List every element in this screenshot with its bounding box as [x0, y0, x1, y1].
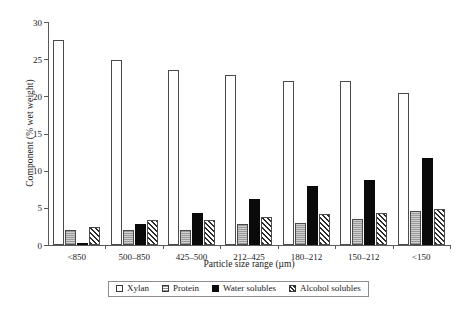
filled-square-icon: [212, 285, 219, 292]
legend-item-label: Xylan: [127, 284, 149, 293]
bar-water-solubles[interactable]: [422, 158, 433, 245]
y-axis-tick-label: 10: [33, 166, 42, 176]
legend-item-water-solubles[interactable]: Water solubles: [212, 284, 276, 293]
bar-xylan[interactable]: [283, 81, 294, 245]
x-axis-tick-mark: [163, 245, 164, 249]
x-axis-line: [48, 245, 450, 246]
x-axis-title: Particle size range (µm): [48, 259, 450, 269]
y-axis-tick-label: 20: [33, 92, 42, 102]
bar-group: 425–500: [163, 22, 220, 245]
bar-xylan[interactable]: [398, 93, 409, 245]
y-axis-tick: 0: [48, 245, 49, 246]
bar-protein[interactable]: [295, 223, 306, 245]
chart-legend: XylanProteinWater solublesAlcohol solubl…: [108, 281, 369, 297]
bar-xylan[interactable]: [168, 70, 179, 245]
y-axis-tick-label: 15: [33, 129, 42, 139]
y-axis-tick-label: 30: [33, 18, 42, 28]
bar-chart-figure: Component (% wet weight) 051015202530 <8…: [0, 0, 458, 311]
dotted-square-icon: [162, 285, 169, 292]
bar-water-solubles[interactable]: [192, 213, 203, 245]
x-axis-tick-mark: [278, 245, 279, 249]
bar-water-solubles[interactable]: [135, 224, 146, 245]
bar-alcohol-solubles[interactable]: [319, 214, 330, 245]
x-axis-tick-mark: [220, 245, 221, 249]
open-square-icon: [116, 285, 123, 292]
bar-xylan[interactable]: [53, 40, 64, 245]
plot-area: 051015202530 <850500–850425–500212–42518…: [48, 22, 450, 245]
bar-protein[interactable]: [180, 230, 191, 245]
x-axis-tick-mark: [393, 245, 394, 249]
bar-xylan[interactable]: [111, 60, 122, 245]
bar-alcohol-solubles[interactable]: [204, 220, 215, 245]
bar-alcohol-solubles[interactable]: [376, 213, 387, 245]
bar-protein[interactable]: [352, 219, 363, 245]
bar-group-bars: [48, 22, 105, 245]
bar-group: <850: [48, 22, 105, 245]
bar-group-bars: [278, 22, 335, 245]
bar-group: 150–212: [335, 22, 392, 245]
bar-water-solubles[interactable]: [364, 180, 375, 245]
y-axis-tick-mark: [44, 245, 48, 246]
legend-item-label: Protein: [173, 284, 199, 293]
bar-protein[interactable]: [123, 230, 134, 245]
bar-group-bars: [163, 22, 220, 245]
bar-group-bars: [220, 22, 277, 245]
bar-protein[interactable]: [237, 224, 248, 245]
bar-xylan[interactable]: [225, 75, 236, 245]
bar-group-bars: [105, 22, 162, 245]
bar-group: 500–850: [105, 22, 162, 245]
bar-group: 180–212: [278, 22, 335, 245]
bar-group-bars: [335, 22, 392, 245]
y-axis-tick-label: 0: [38, 241, 43, 251]
bar-group: <150: [393, 22, 450, 245]
y-axis-tick-label: 25: [33, 55, 42, 65]
bar-water-solubles[interactable]: [307, 186, 318, 245]
bar-alcohol-solubles[interactable]: [89, 227, 100, 245]
x-axis-tick-mark: [450, 245, 451, 249]
x-axis-tick-mark: [105, 245, 106, 249]
y-axis-tick-label: 5: [38, 203, 43, 213]
legend-item-label: Alcohol solubles: [300, 284, 361, 293]
legend-item-alcohol-solubles[interactable]: Alcohol solubles: [289, 284, 361, 293]
bar-alcohol-solubles[interactable]: [434, 209, 445, 245]
bar-protein[interactable]: [410, 211, 421, 245]
bar-xylan[interactable]: [340, 81, 351, 245]
legend-item-label: Water solubles: [223, 284, 276, 293]
x-axis-tick-mark: [335, 245, 336, 249]
legend-item-xylan[interactable]: Xylan: [116, 284, 149, 293]
bar-alcohol-solubles[interactable]: [261, 217, 272, 245]
legend-item-protein[interactable]: Protein: [162, 284, 199, 293]
bar-group-bars: [393, 22, 450, 245]
bar-water-solubles[interactable]: [77, 243, 88, 245]
bar-alcohol-solubles[interactable]: [147, 220, 158, 245]
bar-protein[interactable]: [65, 230, 76, 245]
bar-water-solubles[interactable]: [249, 199, 260, 245]
hatched-square-icon: [289, 285, 296, 292]
bar-group: 212–425: [220, 22, 277, 245]
